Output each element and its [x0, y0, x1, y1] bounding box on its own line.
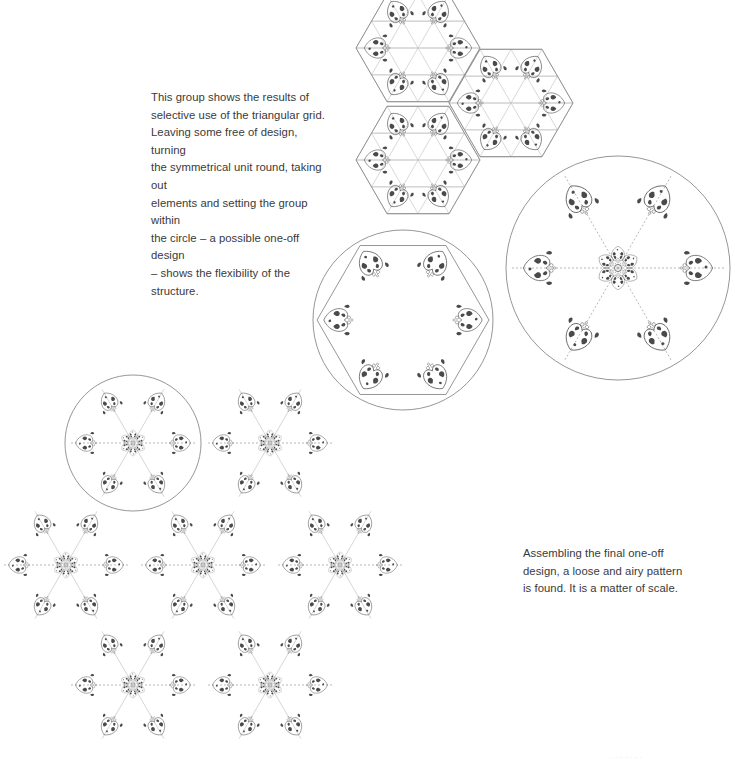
assembled-one-off-pattern: [4, 375, 402, 740]
triangular-grid: [449, 49, 573, 156]
ornament-motif: [169, 674, 190, 696]
pattern-cluster: [208, 630, 332, 741]
ornament-motif: [420, 0, 457, 31]
illustration-canvas: [0, 0, 735, 765]
ornament-motif: [239, 554, 260, 576]
grid-hexagon: [449, 49, 573, 156]
outer-circle: [313, 230, 493, 410]
dashed-spoke: [618, 268, 672, 362]
ornament-motif: [145, 554, 166, 576]
triangular-grid-hexagon-group: [356, 0, 573, 214]
ornament-motif: [282, 554, 303, 576]
pattern-cluster: [278, 510, 402, 621]
ornament-motif: [306, 674, 327, 696]
hexagon-outline: [356, 0, 480, 102]
ornament-motif: [415, 356, 456, 397]
ornament-motif: [324, 305, 353, 336]
ornament-motif: [379, 0, 416, 31]
ornament-motif: [634, 313, 680, 358]
triangular-grid: [356, 106, 480, 213]
ornament-motif: [212, 674, 233, 696]
ornament-motif: [102, 554, 123, 576]
ornament-motif: [453, 305, 482, 336]
ornament-motif: [350, 356, 391, 397]
ornament-motif: [75, 432, 96, 454]
ornament-motif: [212, 432, 233, 454]
dashed-spoke: [564, 268, 618, 362]
grid-hexagon: [356, 0, 480, 102]
ornament-motif: [75, 674, 96, 696]
pattern-cluster: [71, 630, 195, 741]
grid-hexagon: [356, 106, 480, 213]
ornament-motif: [556, 178, 602, 223]
ornament-motif: [306, 432, 327, 454]
rosette-with-satellites-in-circle: [506, 156, 730, 380]
ornament-motif: [415, 244, 456, 285]
ornament-motif: [350, 244, 391, 285]
inner-hexagon: [317, 246, 489, 395]
ornament-motif: [634, 178, 680, 223]
dashed-spoke: [564, 174, 618, 268]
ornament-motif: [169, 432, 190, 454]
dashed-spoke: [618, 174, 672, 268]
ornament-motif: [376, 554, 397, 576]
pattern-cluster: [208, 388, 332, 499]
six-point-star-in-circle: [313, 230, 493, 410]
pattern-cluster: [4, 510, 128, 621]
ornament-motif: [556, 313, 602, 358]
pattern-cluster: [71, 388, 195, 499]
ornament-motif: [8, 554, 29, 576]
pattern-cluster: [141, 510, 265, 621]
